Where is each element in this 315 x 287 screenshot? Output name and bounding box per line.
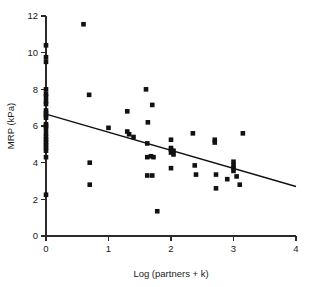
data-point-marker (150, 173, 155, 178)
data-point-marker (214, 186, 219, 191)
y-tick-label: 10 (27, 47, 38, 58)
data-point-marker (234, 174, 239, 179)
x-tick-label: 3 (231, 243, 236, 254)
data-point-marker (44, 148, 49, 153)
data-point-marker (44, 102, 49, 107)
x-axis-ticks: 01234 (43, 236, 298, 254)
data-point-marker (44, 126, 49, 131)
data-point-marker (44, 155, 49, 160)
data-point-marker (44, 87, 49, 92)
data-point-marker (44, 55, 49, 60)
x-tick-label: 2 (168, 243, 173, 254)
y-axis-ticks: 024681012 (27, 10, 46, 241)
y-tick-label: 6 (33, 120, 38, 131)
x-axis-title: Log (partners + k) (133, 268, 208, 279)
data-point-marker (155, 209, 160, 214)
data-point-marker (44, 43, 49, 48)
data-point-marker (87, 160, 92, 165)
data-point-marker (192, 163, 197, 168)
data-point-marker (87, 93, 92, 98)
axes (46, 16, 296, 236)
data-point-marker (225, 177, 230, 182)
regression-line (46, 114, 296, 186)
data-point-marker (44, 192, 49, 197)
data-point-marker (125, 109, 130, 114)
x-tick-label: 1 (106, 243, 111, 254)
data-point-marker (241, 131, 246, 136)
data-point-marker (106, 126, 111, 131)
y-tick-label: 2 (33, 194, 38, 205)
data-point-marker (191, 131, 196, 136)
data-point-marker (144, 87, 149, 92)
scatter-plot-figure: 024681012 01234 Log (partners + k) MRP (… (0, 0, 315, 287)
y-axis-title: MRP (kPa) (5, 103, 16, 149)
x-tick-label: 4 (293, 243, 298, 254)
data-point-marker (145, 173, 150, 178)
data-point-marker (169, 166, 174, 171)
y-tick-label: 8 (33, 84, 38, 95)
data-point-marker (214, 172, 219, 177)
plot-canvas: 024681012 01234 Log (partners + k) MRP (… (0, 0, 315, 287)
data-point-marker (237, 182, 242, 187)
data-point-marker (171, 152, 176, 157)
data-point-marker (194, 172, 199, 177)
y-tick-label: 12 (27, 10, 38, 21)
data-point-marker (169, 137, 174, 142)
data-point-marker (127, 132, 132, 137)
data-point-marker (212, 140, 217, 145)
y-tick-label: 4 (33, 157, 38, 168)
data-point-marker (44, 94, 49, 99)
data-point-marker (150, 103, 155, 108)
data-point-marker (146, 120, 151, 125)
data-point-marker (44, 60, 49, 65)
x-tick-label: 0 (43, 243, 48, 254)
data-point-marker (81, 22, 86, 27)
data-points (44, 22, 245, 214)
data-point-marker (151, 155, 156, 160)
y-tick-label: 0 (33, 230, 38, 241)
data-point-marker (44, 115, 49, 120)
data-point-marker (87, 182, 92, 187)
